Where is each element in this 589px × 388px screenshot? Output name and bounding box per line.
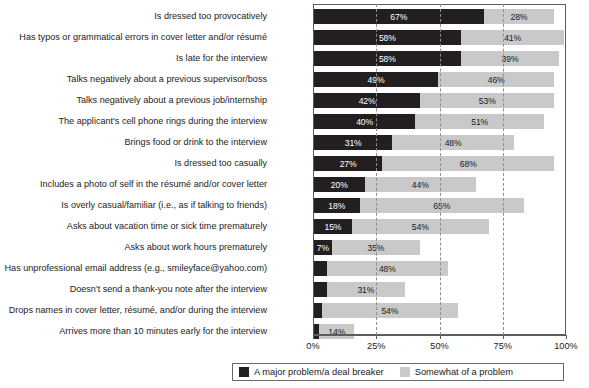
chart-row: Is overly casual/familiar (i.e., as if t… [0, 195, 589, 216]
x-tick-mark [566, 335, 567, 339]
bar-value-label: 15% [325, 222, 342, 232]
legend-swatch-major-icon [239, 367, 249, 377]
legend-item-somewhat[interactable]: Somewhat of a problem [400, 367, 513, 377]
bar-value-label: 58% [379, 33, 396, 43]
chart-row: Asks about work hours prematurely7%35% [0, 237, 589, 258]
bar-segment-somewhat: 68% [382, 156, 554, 171]
bar-segment-somewhat: 41% [461, 30, 565, 45]
bar-value-label: 51% [471, 117, 488, 127]
chart-row: The applicant's cell phone rings during … [0, 111, 589, 132]
bar-segment-somewhat: 39% [461, 51, 560, 66]
bar-segment-major: 27% [314, 156, 382, 171]
legend-label-somewhat: Somewhat of a problem [415, 367, 513, 377]
chart-row: Drops names in cover letter, résumé, and… [0, 300, 589, 321]
category-label: Talks negatively about a previous superv… [67, 69, 267, 90]
chart-row: Talks negatively about a previous superv… [0, 69, 589, 90]
bar-value-label: 41% [504, 33, 521, 43]
bar-value-label: 54% [381, 306, 398, 316]
bar-segment-major [314, 261, 327, 276]
chart-row: Doesn't send a thank-you note after the … [0, 279, 589, 300]
bar-value-label: 39% [502, 54, 519, 64]
chart-row: Asks about vacation time or sick time pr… [0, 216, 589, 237]
chart-legend: A major problem/a deal breaker Somewhat … [232, 363, 564, 381]
bar-value-label: 65% [433, 201, 450, 211]
category-label: Is overly casual/familiar (i.e., as if t… [61, 195, 267, 216]
bar-value-label: 18% [328, 201, 345, 211]
chart-row: Is late for the interview58%39% [0, 48, 589, 69]
chart-row: Is dressed too casually27%68% [0, 153, 589, 174]
category-label: Is dressed too provocatively [154, 6, 267, 27]
legend-label-major: A major problem/a deal breaker [254, 367, 384, 377]
bar-value-label: 40% [356, 117, 373, 127]
category-label: Is late for the interview [176, 48, 267, 69]
x-tick-mark [313, 335, 314, 339]
bar-segment-major: 18% [314, 198, 360, 213]
bar-value-label: 31% [357, 285, 374, 295]
bar-value-label: 20% [331, 180, 348, 190]
category-label: Brings food or drink to the interview [124, 132, 267, 153]
gridline [440, 4, 441, 335]
category-label: Talks negatively about a previous job/in… [76, 90, 267, 111]
x-tick-mark [376, 335, 377, 339]
x-tick-label: 25% [367, 341, 385, 351]
bar-segment-major: 20% [314, 177, 365, 192]
category-label: Drops names in cover letter, résumé, and… [9, 300, 267, 321]
category-label: Has unprofessional email address (e.g., … [5, 258, 267, 279]
bar-segment-somewhat: 54% [352, 219, 489, 234]
category-label: Is dressed too casually [174, 153, 267, 174]
bar-segment-major: 15% [314, 219, 352, 234]
bar-segment-major: 40% [314, 114, 415, 129]
chart-row: Brings food or drink to the interview31%… [0, 132, 589, 153]
bar-segment-somewhat: 14% [319, 324, 354, 339]
category-label: Has typos or grammatical errors in cover… [19, 27, 267, 48]
x-tick-label: 0% [306, 341, 319, 351]
chart-row: Is dressed too provocatively67%28% [0, 6, 589, 27]
chart-row: Has unprofessional email address (e.g., … [0, 258, 589, 279]
bar-value-label: 42% [359, 96, 376, 106]
bar-value-label: 44% [412, 180, 429, 190]
category-label: Asks about work hours prematurely [124, 237, 267, 258]
bar-segment-major [314, 303, 322, 318]
x-tick-mark [503, 335, 504, 339]
legend-swatch-somewhat-icon [400, 367, 410, 377]
category-label: Includes a photo of self in the résumé a… [40, 174, 267, 195]
bar-segment-somewhat: 44% [365, 177, 476, 192]
bar-segment-somewhat: 54% [322, 303, 459, 318]
chart-row: Talks negatively about a previous job/in… [0, 90, 589, 111]
chart-row: Arrives more than 10 minutes early for t… [0, 321, 589, 342]
chart-row: Has typos or grammatical errors in cover… [0, 27, 589, 48]
chart-rows: Is dressed too provocatively67%28%Has ty… [0, 6, 589, 342]
bar-value-label: 48% [445, 138, 462, 148]
legend-item-major[interactable]: A major problem/a deal breaker [239, 367, 384, 377]
bar-value-label: 48% [379, 264, 396, 274]
category-label: Arrives more than 10 minutes early for t… [59, 321, 267, 342]
x-tick-label: 75% [494, 341, 512, 351]
bar-value-label: 7% [317, 243, 329, 253]
bar-value-label: 58% [379, 54, 396, 64]
bar-value-label: 53% [479, 96, 496, 106]
bar-segment-major: 7% [314, 240, 332, 255]
bar-value-label: 27% [340, 159, 357, 169]
bar-segment-major: 31% [314, 135, 392, 150]
stacked-bar-chart: Is dressed too provocatively67%28%Has ty… [0, 0, 589, 388]
gridline [376, 4, 377, 335]
bar-value-label: 67% [390, 12, 407, 22]
category-label: Doesn't send a thank-you note after the … [70, 279, 267, 300]
bar-segment-major: 67% [314, 9, 484, 24]
bar-segment-somewhat: 65% [360, 198, 524, 213]
x-tick-mark [440, 335, 441, 339]
bar-value-label: 31% [345, 138, 362, 148]
bar-segment-somewhat: 31% [327, 282, 405, 297]
category-label: Asks about vacation time or sick time pr… [67, 216, 267, 237]
bar-value-label: 28% [510, 12, 527, 22]
bar-value-label: 68% [460, 159, 477, 169]
bar-segment-major [314, 282, 327, 297]
category-label: The applicant's cell phone rings during … [59, 111, 268, 132]
bar-segment-major: 42% [314, 93, 420, 108]
bar-value-label: 54% [412, 222, 429, 232]
chart-row: Includes a photo of self in the résumé a… [0, 174, 589, 195]
gridline [503, 4, 504, 335]
bar-segment-somewhat: 51% [415, 114, 544, 129]
x-tick-label: 100% [554, 341, 578, 351]
bar-segment-somewhat: 46% [438, 72, 554, 87]
